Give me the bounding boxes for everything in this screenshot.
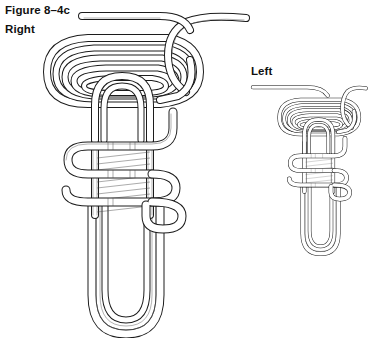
standing-end-tail-small xyxy=(253,87,328,95)
knot-diagram-canvas xyxy=(0,0,373,338)
inner-arch-loop-small xyxy=(304,120,333,153)
right-side-label: Right xyxy=(5,23,35,35)
serpentine-weave-small xyxy=(289,138,349,199)
left-knot-diagram xyxy=(253,87,366,253)
left-side-label: Left xyxy=(251,65,272,77)
figure-number-label: Figure 8–4c xyxy=(5,4,70,16)
serpentine-weave xyxy=(66,112,182,229)
right-knot-diagram xyxy=(47,16,246,334)
